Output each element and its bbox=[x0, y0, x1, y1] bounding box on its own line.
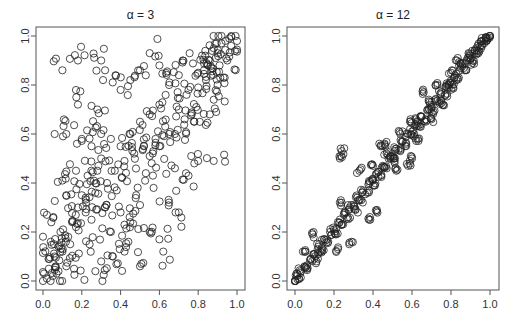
figure: α = 30.00.20.40.60.81.00.00.20.40.60.81.… bbox=[0, 0, 511, 321]
data-point bbox=[199, 90, 206, 97]
data-point bbox=[131, 155, 138, 162]
data-point bbox=[163, 170, 170, 177]
data-point bbox=[454, 54, 461, 61]
data-point bbox=[98, 258, 105, 265]
data-point bbox=[153, 164, 160, 171]
x-tick-label: 0.4 bbox=[113, 298, 128, 310]
data-point bbox=[212, 54, 219, 61]
data-point bbox=[190, 183, 197, 190]
y-tick-label: 1.0 bbox=[270, 28, 282, 43]
y-tick-label: 0.0 bbox=[270, 273, 282, 288]
data-point bbox=[150, 184, 157, 191]
data-point bbox=[59, 67, 66, 74]
data-point bbox=[77, 43, 84, 50]
data-point bbox=[434, 79, 441, 86]
data-point bbox=[162, 91, 169, 98]
data-point bbox=[73, 94, 80, 101]
data-point bbox=[218, 32, 225, 39]
data-point bbox=[162, 116, 169, 123]
data-point bbox=[161, 155, 168, 162]
data-point bbox=[142, 177, 149, 184]
data-point bbox=[156, 62, 163, 69]
data-point bbox=[109, 253, 116, 260]
data-point bbox=[122, 169, 129, 176]
data-point bbox=[115, 240, 122, 247]
data-point bbox=[68, 191, 75, 198]
data-point bbox=[146, 50, 153, 57]
x-tick-label: 0.8 bbox=[443, 298, 458, 310]
data-point bbox=[101, 266, 108, 273]
data-point bbox=[233, 37, 240, 44]
data-point bbox=[71, 52, 78, 59]
data-point bbox=[159, 262, 166, 269]
data-point bbox=[142, 170, 149, 177]
data-point bbox=[222, 46, 229, 53]
data-point bbox=[210, 157, 217, 164]
data-point bbox=[134, 249, 141, 256]
data-point bbox=[119, 232, 126, 239]
data-point bbox=[88, 216, 95, 223]
data-point bbox=[98, 57, 105, 64]
data-point bbox=[194, 150, 201, 157]
data-point bbox=[186, 50, 193, 57]
y-tick-label: 0.0 bbox=[19, 273, 31, 288]
data-point bbox=[95, 162, 102, 169]
x-tick-label: 0.4 bbox=[365, 298, 380, 310]
data-point bbox=[221, 98, 228, 105]
data-point bbox=[215, 32, 222, 39]
data-point bbox=[81, 276, 88, 283]
data-point bbox=[126, 205, 133, 212]
data-point bbox=[118, 267, 125, 274]
data-point bbox=[95, 146, 102, 153]
data-point bbox=[215, 93, 222, 100]
x-tick-label: 0.6 bbox=[404, 298, 419, 310]
data-point bbox=[88, 102, 95, 109]
data-point bbox=[66, 161, 73, 168]
data-point bbox=[172, 61, 179, 68]
y-tick-label: 0.8 bbox=[19, 77, 31, 92]
data-point bbox=[136, 201, 143, 208]
x-tick-label: 0.2 bbox=[74, 298, 89, 310]
y-tick-label: 1.0 bbox=[19, 28, 31, 43]
data-point bbox=[132, 165, 139, 172]
data-point bbox=[72, 167, 79, 174]
data-point bbox=[88, 143, 95, 150]
data-point bbox=[221, 151, 228, 158]
x-tick-label: 0.6 bbox=[152, 298, 167, 310]
data-point bbox=[101, 67, 108, 74]
data-point bbox=[148, 160, 155, 167]
data-point bbox=[124, 91, 131, 98]
data-point bbox=[93, 67, 100, 74]
data-point bbox=[66, 55, 73, 62]
data-point bbox=[51, 197, 58, 204]
y-tick-label: 0.4 bbox=[19, 175, 31, 190]
data-point bbox=[140, 62, 147, 69]
data-point bbox=[99, 76, 106, 83]
data-point bbox=[89, 234, 96, 241]
data-point bbox=[81, 52, 88, 59]
data-point bbox=[173, 187, 180, 194]
data-point bbox=[149, 113, 156, 120]
data-point bbox=[100, 45, 107, 52]
data-point bbox=[143, 134, 150, 141]
x-tick-label: 1.0 bbox=[482, 298, 497, 310]
data-point bbox=[103, 265, 110, 272]
data-point bbox=[91, 54, 98, 61]
x-tick-label: 1.0 bbox=[229, 298, 244, 310]
data-point bbox=[71, 122, 78, 129]
data-point bbox=[154, 35, 161, 42]
data-point bbox=[109, 212, 116, 219]
data-point bbox=[109, 79, 116, 86]
data-point bbox=[63, 192, 70, 199]
y-tick-label: 0.6 bbox=[270, 126, 282, 141]
data-point bbox=[117, 143, 124, 150]
data-point bbox=[101, 204, 108, 211]
data-point bbox=[156, 198, 163, 205]
data-point bbox=[173, 113, 180, 120]
data-point bbox=[181, 121, 188, 128]
x-tick-label: 0.8 bbox=[191, 298, 206, 310]
data-point bbox=[108, 192, 115, 199]
data-point bbox=[63, 168, 70, 175]
data-point bbox=[165, 235, 172, 242]
data-point bbox=[131, 150, 138, 157]
